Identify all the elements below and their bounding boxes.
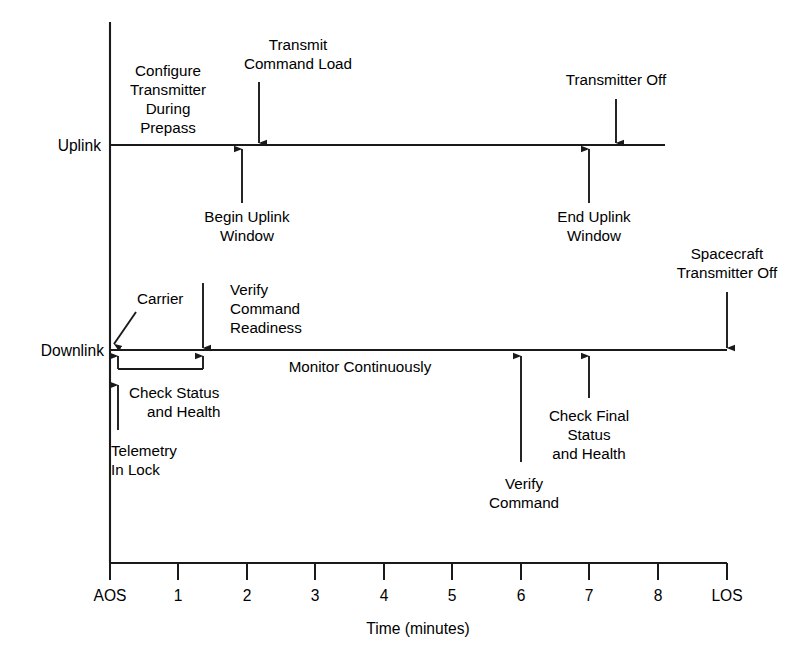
annotation-begin-uplink-window: Begin Uplink Window [204, 149, 290, 244]
check-final-status-line-2: Status [567, 426, 610, 443]
check-status-line-2: and Health [147, 403, 220, 420]
transmit-command-load-line-1: Transmit [269, 36, 328, 53]
axis-title-time: Time (minutes) [366, 620, 469, 637]
annotation-carrier: Carrier [114, 290, 183, 344]
annotation-verify-command: Verify Command [489, 356, 559, 511]
check-status-line-1: Check Status [129, 384, 220, 401]
verify-command-readiness-line-2: Command [230, 300, 300, 317]
annotation-check-status-and-health: Check Status and Health [118, 356, 220, 420]
configure-transmitter-line-3: During [146, 100, 191, 117]
check-final-status-line-3: and Health [552, 445, 625, 462]
annotation-transmitter-off: Transmitter Off [566, 71, 667, 143]
tick-label-3: 3 [311, 587, 320, 604]
tick-label-6: 6 [517, 587, 526, 604]
carrier-label: Carrier [137, 290, 183, 307]
end-uplink-window-line-2: Window [567, 227, 621, 244]
verify-command-line-1: Verify [505, 475, 543, 492]
end-uplink-window-line-1: End Uplink [557, 208, 631, 225]
annotation-monitor-continuously: Monitor Continuously [289, 358, 432, 375]
axis-tick-labels: AOS 1 2 3 4 5 6 7 8 LOS [94, 587, 743, 604]
spacecraft-transmitter-off-line-2: Transmitter Off [677, 264, 778, 281]
begin-uplink-window-line-1: Begin Uplink [204, 208, 290, 225]
spacecraft-transmitter-off-line-1: Spacecraft [691, 245, 764, 262]
tick-label-aos: AOS [94, 587, 127, 604]
tick-label-8: 8 [654, 587, 663, 604]
verify-command-readiness-line-3: Readiness [230, 319, 302, 336]
configure-transmitter-line-1: Configure [135, 62, 201, 79]
annotation-spacecraft-transmitter-off: Spacecraft Transmitter Off [677, 245, 778, 348]
annotation-configure-transmitter: Configure Transmitter During Prepass [130, 62, 206, 136]
tick-label-7: 7 [585, 587, 594, 604]
tick-label-2: 2 [243, 587, 252, 604]
track-label-uplink: Uplink [58, 137, 102, 154]
transmitter-off-line-1: Transmitter Off [566, 71, 667, 88]
telemetry-in-lock-line-2: In Lock [111, 461, 160, 478]
timeline-diagram: AOS 1 2 3 4 5 6 7 8 LOS Time (minutes) U… [0, 0, 810, 654]
annotation-check-final-status: Check Final Status and Health [549, 356, 629, 462]
tick-label-1: 1 [174, 587, 183, 604]
verify-command-line-2: Command [489, 494, 559, 511]
carrier-arrow-icon [114, 312, 136, 344]
monitor-continuously-label: Monitor Continuously [289, 358, 432, 375]
track-label-downlink: Downlink [41, 342, 104, 359]
tick-label-5: 5 [448, 587, 457, 604]
begin-uplink-window-line-2: Window [220, 227, 274, 244]
check-final-status-line-1: Check Final [549, 407, 629, 424]
timeline-canvas: AOS 1 2 3 4 5 6 7 8 LOS Time (minutes) U… [0, 0, 810, 654]
configure-transmitter-line-4: Prepass [140, 119, 196, 136]
tick-label-4: 4 [380, 587, 389, 604]
tick-label-los: LOS [711, 587, 742, 604]
annotation-transmit-command-load: Transmit Command Load [244, 36, 352, 143]
axis-ticks [110, 563, 727, 580]
transmit-command-load-line-2: Command Load [244, 55, 352, 72]
annotation-end-uplink-window: End Uplink Window [557, 149, 631, 244]
telemetry-in-lock-line-1: Telemetry [111, 442, 177, 459]
annotation-verify-command-readiness: Verify Command Readiness [203, 281, 302, 348]
configure-transmitter-line-2: Transmitter [130, 81, 206, 98]
verify-command-readiness-line-1: Verify [230, 281, 268, 298]
